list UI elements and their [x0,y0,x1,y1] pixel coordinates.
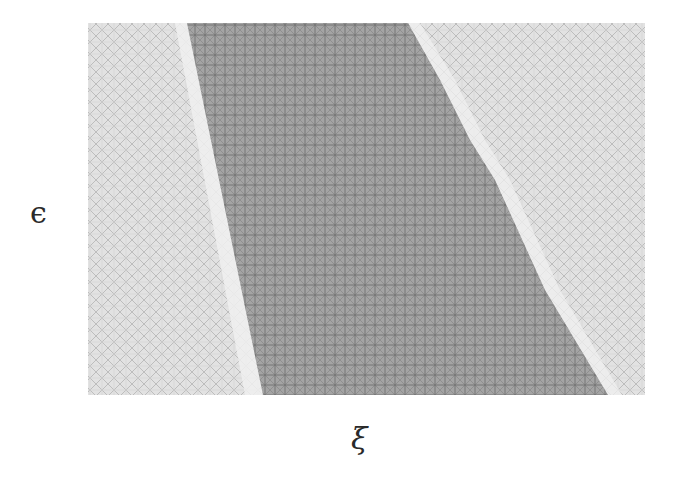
x-axis-label: ξ [351,424,368,454]
y-axis-label: ϵ [30,198,47,228]
region-plot [0,0,682,490]
